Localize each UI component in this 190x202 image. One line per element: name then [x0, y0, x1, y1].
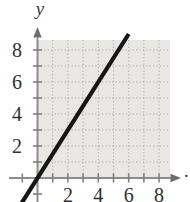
- y-axis-title: y: [34, 0, 45, 19]
- grid-background: [38, 40, 171, 178]
- coordinate-plane: 24688642 y .: [0, 0, 190, 202]
- plot-layers: 24688642: [9, 27, 181, 202]
- graph-figure: 24688642 y .: [0, 0, 190, 202]
- y-tick-label: 4: [12, 103, 22, 125]
- x-axis-arrow-icon: [171, 174, 182, 182]
- x-tick-label: 4: [93, 184, 103, 202]
- sentence-period: .: [184, 161, 189, 181]
- y-tick-label: 8: [12, 39, 22, 61]
- y-axis-arrow-icon: [33, 27, 41, 38]
- x-tick-label: 2: [63, 184, 73, 202]
- y-tick-label: 6: [12, 71, 22, 93]
- x-tick-label: 6: [124, 184, 134, 202]
- x-tick-label: 8: [154, 184, 164, 202]
- y-tick-label: 2: [12, 135, 22, 157]
